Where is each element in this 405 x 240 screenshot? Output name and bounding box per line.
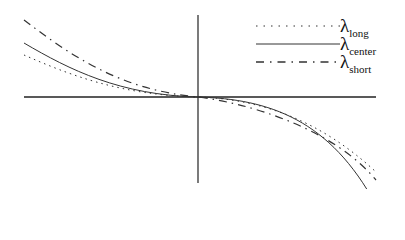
curve-long <box>24 55 376 172</box>
curve-center <box>24 43 376 189</box>
legend-label-short: λshort <box>340 52 371 75</box>
